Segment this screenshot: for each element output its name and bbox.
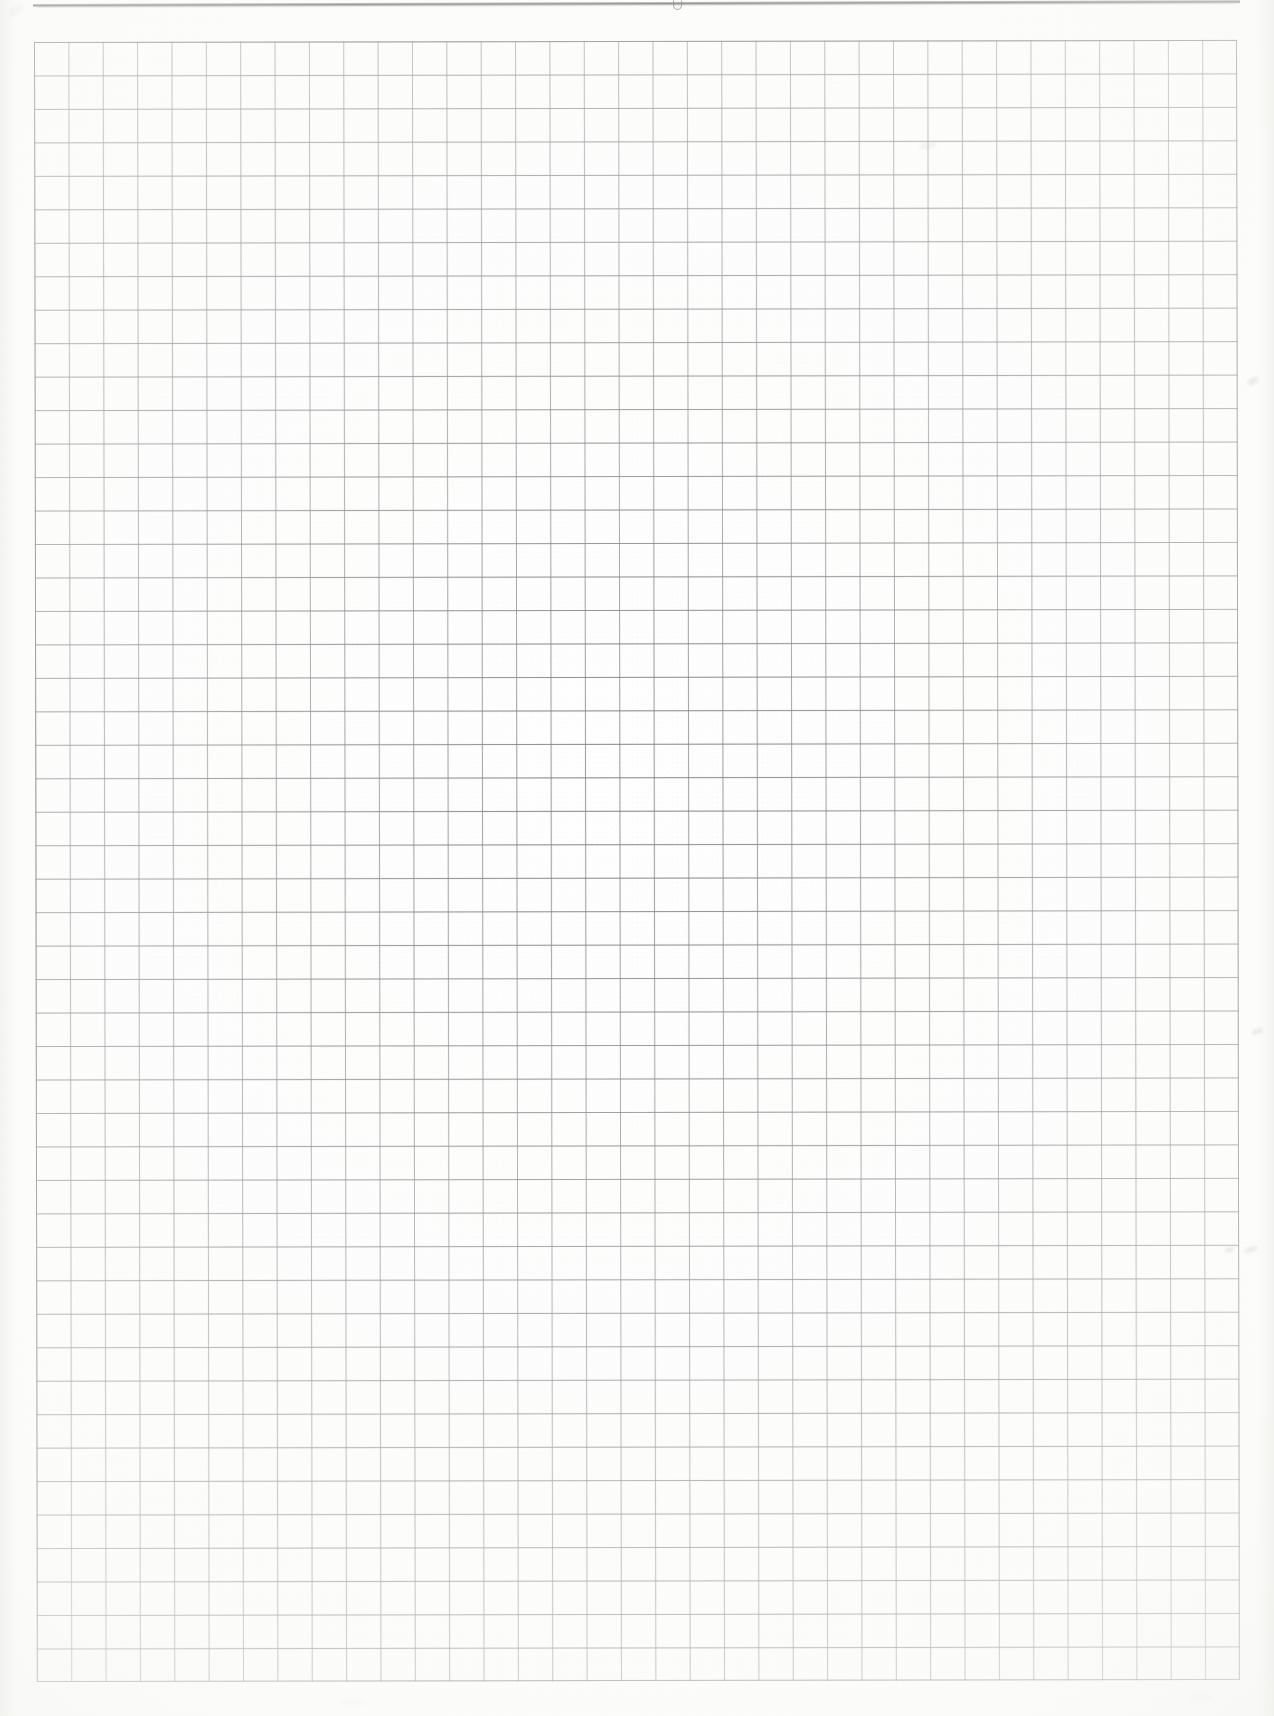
page-edge-right — [1258, 0, 1274, 1716]
grid-skew-layer — [34, 40, 1240, 1682]
scanned-page — [0, 0, 1274, 1716]
grid-outer-border — [34, 40, 1240, 1682]
page-edge-left — [0, 0, 16, 1716]
paper-smudge — [1244, 1245, 1259, 1254]
ink-blob-mark — [673, 0, 682, 10]
paper-smudge — [7, 1, 26, 19]
paper-smudge — [1190, 1694, 1212, 1701]
graph-paper-grid — [34, 42, 1237, 1682]
paper-smudge — [1246, 376, 1259, 387]
paper-smudge — [1251, 1027, 1263, 1036]
paper-smudge — [340, 1700, 366, 1706]
